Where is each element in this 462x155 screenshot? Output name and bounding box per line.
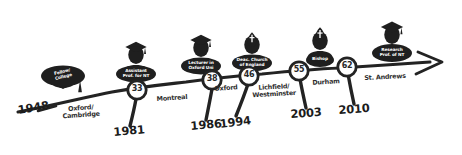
role-label-assistant-prof: Assistant Prof. for NT <box>116 69 156 79</box>
place-label-lichfield-westminster: Lichfield/ Westminster <box>243 82 306 99</box>
career-timeline: 1948 1981 1986 1994 2003 2010 Oxford/ Ca… <box>0 0 462 155</box>
age-node-38: 38 <box>203 75 221 83</box>
age-node-55: 55 <box>290 66 308 74</box>
year-label-1994: 1994 <box>219 114 251 130</box>
age-node-62: 62 <box>338 62 356 70</box>
role-label-deacon-church: Deac. Church of England <box>232 58 272 68</box>
year-label-2003: 2003 <box>290 106 322 120</box>
role-label-research-prof: Research Prof. of NT <box>372 48 412 58</box>
year-label-1986: 1986 <box>190 117 222 132</box>
age-node-46: 46 <box>240 71 258 79</box>
age-node-33: 33 <box>128 85 146 93</box>
role-label-bishop: Bishop <box>306 57 334 62</box>
year-label-1981: 1981 <box>113 123 145 138</box>
role-label-lecturer-oxford: Lecturer in Oxford Uni <box>181 61 221 71</box>
year-label-2010: 2010 <box>338 102 370 116</box>
